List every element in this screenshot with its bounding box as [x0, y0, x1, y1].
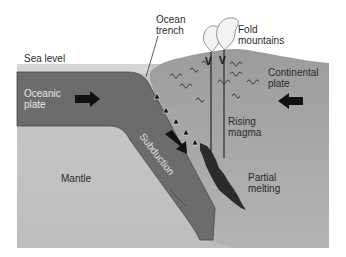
volcano-vent-left: V	[205, 56, 212, 67]
rising-magma-label: Rising magma	[228, 116, 261, 138]
oceanic-plate-label: Oceanic plate	[24, 88, 61, 110]
volcano-vent-right: V	[219, 55, 226, 66]
continental-plate-label-line2: plate	[268, 78, 319, 89]
fold-mountains-label: Fold mountains	[238, 24, 284, 46]
continental-plate-label: Continental plate	[268, 67, 319, 89]
smoke-plume-right	[217, 18, 239, 50]
mantle-label: Mantle	[61, 173, 91, 184]
fold-mountains-label-line2: mountains	[238, 35, 284, 46]
partial-melting-label: Partial melting	[248, 172, 280, 194]
ocean-trench-label-line1: Ocean	[156, 14, 185, 25]
partial-melting-label-line2: melting	[248, 183, 280, 194]
fold-mountains-label-line1: Fold	[238, 24, 284, 35]
rising-magma-label-line1: Rising	[228, 116, 261, 127]
subduction-diagram: V V	[0, 0, 346, 257]
sea-level-label: Sea level	[24, 53, 65, 64]
partial-melting-label-line1: Partial	[248, 172, 280, 183]
oceanic-plate-label-line1: Oceanic	[24, 88, 61, 99]
ocean-trench-label: Ocean trench	[156, 14, 185, 36]
oceanic-plate-label-line2: plate	[24, 99, 61, 110]
rising-magma-label-line2: magma	[228, 127, 261, 138]
ocean-trench-label-line2: trench	[156, 25, 185, 36]
continental-plate-label-line1: Continental	[268, 67, 319, 78]
